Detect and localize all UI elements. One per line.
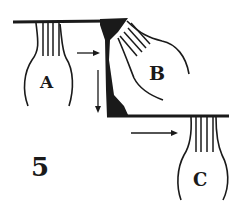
arrow-down: [95, 70, 101, 113]
cell-c-body-left: [178, 117, 191, 200]
panel-number: 5: [31, 152, 49, 182]
hair-cell-diagram: A B: [0, 0, 241, 214]
diagram-canvas: A B: [0, 0, 241, 214]
upper-membrane: [13, 21, 108, 22]
cell-b-label: B: [149, 62, 165, 84]
cell-b: [118, 21, 189, 100]
cell-a-body: [25, 23, 38, 106]
cell-c-body-right: [216, 117, 228, 200]
arrow-right-upper: [77, 50, 100, 56]
cell-a-label: A: [39, 72, 54, 92]
cell-a: [25, 23, 73, 106]
arrow-right-lower: [131, 130, 178, 136]
cell-c-stereocilia: [196, 117, 213, 152]
cell-c-label: C: [193, 169, 207, 190]
cell-a-body-right: [60, 24, 72, 106]
cell-a-stereocilia: [43, 23, 59, 56]
